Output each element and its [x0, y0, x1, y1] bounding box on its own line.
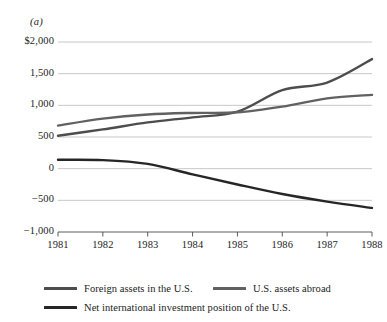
legend-swatch-us-assets-abroad: [213, 287, 246, 290]
x-tick-label: 1984: [173, 239, 213, 250]
legend-item-foreign-assets[interactable]: Foreign assets in the U.S.: [44, 283, 193, 294]
x-tick-label: 1981: [38, 239, 78, 250]
x-tick-label: 1986: [262, 239, 302, 250]
y-tick-label: $2,000: [8, 35, 54, 46]
x-tick-label: 1983: [128, 239, 168, 250]
legend-swatch-foreign-assets: [44, 287, 77, 290]
series-line-1: [58, 95, 372, 126]
y-tick-label: −1,000: [8, 225, 54, 236]
legend-item-us-assets-abroad[interactable]: U.S. assets abroad: [213, 283, 331, 294]
legend-row-1: Foreign assets in the U.S. U.S. assets a…: [0, 283, 382, 298]
x-tick-label: 1985: [217, 239, 257, 250]
series-lines: [58, 59, 372, 208]
legend-label-net-position: Net international investment position of…: [84, 302, 291, 313]
x-tick-label: 1988: [352, 239, 387, 250]
y-tick-label: 1,500: [8, 67, 54, 78]
y-tick-label: 1,000: [8, 98, 54, 109]
series-line-0: [58, 59, 372, 136]
legend-row-2: Net international investment position of…: [0, 302, 382, 317]
x-axis-ticks: [58, 232, 372, 237]
legend-item-net-position[interactable]: Net international investment position of…: [44, 302, 291, 313]
legend-label-foreign-assets: Foreign assets in the U.S.: [84, 283, 193, 294]
gridlines: [58, 42, 372, 200]
y-tick-label: −500: [8, 193, 54, 204]
legend-swatch-net-position: [44, 306, 77, 309]
x-tick-label: 1982: [83, 239, 123, 250]
legend-label-us-assets-abroad: U.S. assets abroad: [253, 283, 331, 294]
y-tick-label: 500: [8, 130, 54, 141]
x-tick-label: 1987: [307, 239, 347, 250]
y-tick-label: 0: [8, 162, 54, 173]
